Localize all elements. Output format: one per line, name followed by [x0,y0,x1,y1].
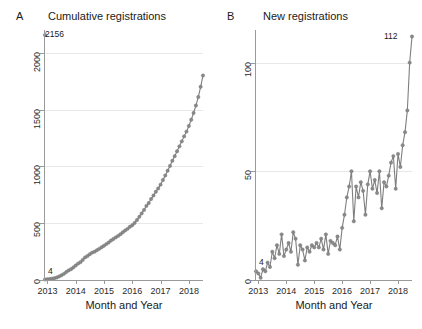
data-point [280,233,283,236]
data-point [371,187,374,190]
x-tick-label: 2018 [174,286,204,296]
y-axis-line-a [44,30,45,280]
annotation-b-end: 112 [384,31,398,41]
x-tick-label: 2015 [299,286,329,296]
data-point [392,154,395,157]
x-tick-label: 2016 [327,286,357,296]
data-point [319,237,322,240]
data-point [352,220,355,223]
panel-a-title: Cumulative registrations [48,10,166,22]
data-point [147,201,150,204]
x-axis-line-a [44,280,203,281]
annotation-a-end: 2156 [45,29,64,39]
data-point [338,248,341,251]
data-point [166,169,169,172]
data-point [375,191,378,194]
x-tick-label: 2014 [61,286,91,296]
panel-a-letter: A [16,10,24,22]
data-point [168,164,171,167]
data-point [145,204,148,207]
data-point [138,215,141,218]
data-point [308,250,311,253]
data-point [287,241,290,244]
data-point [347,185,350,188]
data-point [264,270,267,273]
data-point [340,226,343,229]
x-tick [132,280,133,284]
data-point [306,246,309,249]
data-point [378,170,381,173]
data-point [197,95,200,98]
data-point [315,241,318,244]
y-tick-label: 1000 [32,165,42,219]
data-point [403,130,406,133]
data-point [194,104,197,107]
data-point [185,130,188,133]
x-tick-label: 2017 [355,286,385,296]
data-point [275,244,278,247]
panel-b-title: New registrations [263,10,348,22]
data-point [180,140,183,143]
data-point [396,152,399,155]
data-point [317,246,320,249]
data-point [389,161,392,164]
data-point [285,248,288,251]
data-point [140,212,143,215]
data-point [266,261,269,264]
x-tick [370,280,371,284]
data-point [373,178,376,181]
data-point [292,230,295,233]
x-tick [47,280,48,284]
data-point [368,170,371,173]
x-tick-label: 2013 [243,286,273,296]
data-point [364,213,367,216]
data-point [178,145,181,148]
data-point [268,265,271,268]
data-point [273,257,276,260]
y-tick-label: 50 [243,170,253,224]
data-point [326,252,329,255]
x-tick-label: 2015 [89,286,119,296]
x-tick-label: 2013 [32,286,62,296]
data-point [322,248,325,251]
data-point [408,61,411,64]
data-point [135,218,138,221]
data-point [182,135,185,138]
data-point [303,259,306,262]
data-point [359,180,362,183]
data-point [187,124,190,127]
data-point [289,250,292,253]
data-point [333,244,336,247]
x-tick-label: 2016 [117,286,147,296]
series-b [256,30,412,280]
data-point [361,189,364,192]
data-point [201,74,204,77]
data-point [149,197,152,200]
data-point [171,159,174,162]
data-point [354,185,357,188]
data-point [345,196,348,199]
data-point [257,272,260,275]
data-point [278,252,281,255]
plot-area-b: 050100 201320142015201620172018 4 112 [256,30,412,280]
x-tick [104,280,105,284]
data-point [387,174,390,177]
data-point [324,233,327,236]
data-point [190,118,193,121]
data-point [399,165,402,168]
data-point [385,185,388,188]
x-tick [161,280,162,284]
data-point [336,235,339,238]
data-point [192,111,195,114]
x-tick-label: 2014 [271,286,301,296]
annotation-b-start: 4 [259,257,264,267]
x-tick [258,280,259,284]
y-tick-label: 100 [243,62,253,116]
data-point [406,109,409,112]
data-point [294,237,297,240]
y-axis-line-b [255,30,256,280]
data-point [156,187,159,190]
y-tick-label: 1500 [32,109,42,163]
data-point [142,208,145,211]
data-point [296,263,299,266]
